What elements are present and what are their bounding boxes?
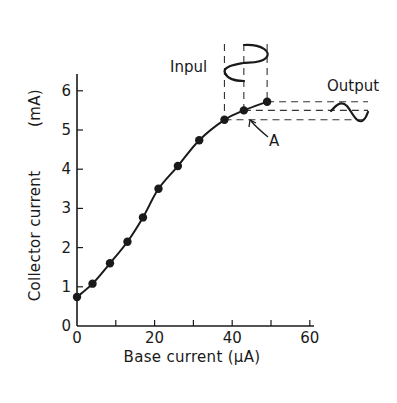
data-point-marker <box>195 136 203 144</box>
x-ticks: 0204060 <box>72 320 319 347</box>
data-point-marker <box>263 98 271 106</box>
y-tick-label: 2 <box>61 239 71 257</box>
x-tick-label: 60 <box>300 329 319 347</box>
point-a-arrow <box>251 121 268 137</box>
x-axis-label: Base current (μA) <box>124 348 261 366</box>
x-tick-label: 20 <box>145 329 164 347</box>
input-label: Inpul <box>170 58 207 76</box>
data-point-marker <box>106 259 114 267</box>
input-waveform <box>225 45 268 81</box>
data-point-marker <box>240 106 248 114</box>
axes <box>77 74 314 326</box>
point-a-label: A <box>269 132 280 150</box>
y-tick-label: 3 <box>61 199 71 217</box>
data-point-marker <box>139 213 147 221</box>
y-tick-label: 6 <box>61 82 71 100</box>
y-tick-label: 5 <box>61 121 71 139</box>
x-tick-label: 40 <box>223 329 242 347</box>
data-point-marker <box>220 116 228 124</box>
chart-canvas: 0204060 0123456 Base current (μA) Collec… <box>0 0 397 403</box>
output-label: Output <box>327 77 379 95</box>
data-point-marker <box>154 185 162 193</box>
data-point-marker <box>174 162 182 170</box>
y-tick-label: 4 <box>61 160 71 178</box>
data-point-marker <box>88 279 96 287</box>
data-points <box>73 98 272 302</box>
y-axis-label: Collector current <box>26 171 44 302</box>
data-point-marker <box>73 293 81 301</box>
x-tick-label: 0 <box>72 329 82 347</box>
transfer-curve <box>77 102 267 297</box>
output-waveform <box>331 103 368 121</box>
y-axis-unit: (mA) <box>26 89 44 127</box>
data-point-marker <box>123 238 131 246</box>
y-tick-label: 1 <box>61 278 71 296</box>
y-tick-label: 0 <box>61 317 71 335</box>
transistor-transfer-chart: 0204060 0123456 Base current (μA) Collec… <box>0 0 397 403</box>
